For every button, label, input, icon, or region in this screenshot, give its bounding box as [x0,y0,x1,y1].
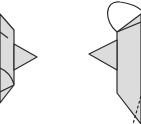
right-figure [89,2,141,124]
left-body [0,14,14,103]
left-figure [0,14,37,103]
origami-diagram [0,0,141,124]
left-triangle-flap [14,44,37,70]
right-triangle-flap [89,40,117,70]
